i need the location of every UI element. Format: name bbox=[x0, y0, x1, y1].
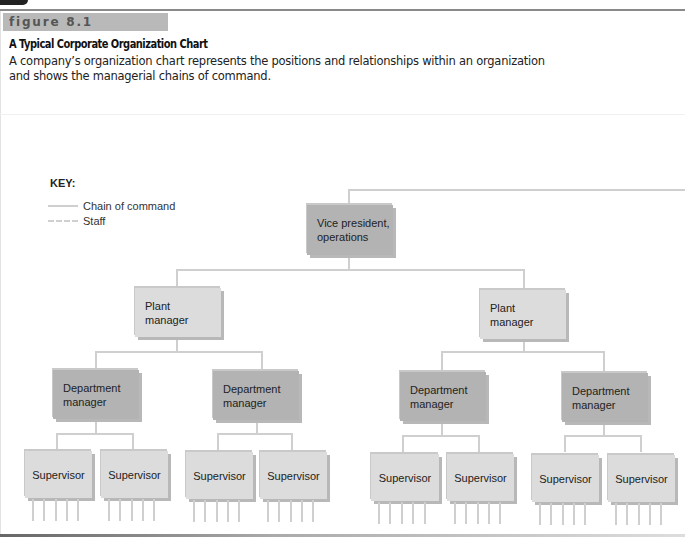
node-supervisor: Supervisor bbox=[371, 454, 439, 501]
connector-line bbox=[56, 433, 134, 435]
subordinate-line bbox=[550, 503, 552, 525]
figure-label: figure 8.1 bbox=[9, 13, 93, 31]
node-vice-president-operations: Vice president, operations bbox=[307, 205, 393, 255]
node-supervisor: Supervisor bbox=[101, 451, 168, 498]
node-supervisor: Supervisor bbox=[25, 451, 92, 498]
connector-line bbox=[441, 422, 443, 436]
node-label: Department manager bbox=[213, 382, 280, 410]
connector-line bbox=[95, 420, 97, 434]
node-label: Supervisor bbox=[267, 469, 320, 483]
solid-line-icon bbox=[48, 205, 78, 207]
key-item-label: Chain of command bbox=[83, 200, 175, 212]
subordinate-line bbox=[454, 502, 456, 524]
subordinate-line bbox=[412, 502, 414, 524]
node-label: Supervisor bbox=[539, 472, 592, 486]
connector-line bbox=[217, 433, 293, 435]
subordinate-line bbox=[193, 500, 195, 522]
figure-description: A company’s organization chart represent… bbox=[9, 54, 569, 83]
node-label: Supervisor bbox=[32, 468, 85, 482]
subordinate-line bbox=[573, 503, 575, 525]
subordinate-line bbox=[238, 500, 240, 522]
subordinate-line bbox=[32, 499, 34, 521]
node-label: Plant manager bbox=[135, 299, 188, 327]
subordinate-line bbox=[216, 500, 218, 522]
subordinate-line bbox=[562, 503, 564, 525]
subordinate-line bbox=[649, 503, 651, 525]
connector-line bbox=[640, 435, 642, 452]
connector-line bbox=[603, 351, 605, 371]
subordinate-line bbox=[477, 502, 479, 524]
subordinate-line bbox=[204, 500, 206, 522]
connector-line bbox=[348, 189, 350, 205]
subordinate-line bbox=[488, 502, 490, 524]
subordinate-line bbox=[55, 499, 57, 521]
connector-line bbox=[603, 422, 605, 436]
node-department-manager: Department manager bbox=[53, 370, 139, 419]
subordinate-line bbox=[465, 502, 467, 524]
subordinate-line bbox=[626, 503, 628, 525]
left-rule bbox=[0, 11, 1, 536]
node-label: Supervisor bbox=[454, 471, 507, 485]
node-label: Department manager bbox=[400, 383, 467, 411]
description-line: and shows the managerial chains of comma… bbox=[9, 69, 569, 84]
connector-line bbox=[564, 435, 642, 437]
subordinate-line bbox=[142, 499, 144, 521]
connector-line bbox=[56, 433, 58, 450]
node-label: Supervisor bbox=[108, 468, 161, 482]
node-supervisor: Supervisor bbox=[447, 454, 514, 501]
subordinate-line bbox=[615, 503, 617, 525]
connector-line bbox=[564, 435, 566, 452]
subordinate-line bbox=[539, 503, 541, 525]
subordinate-line bbox=[424, 502, 426, 524]
connector-line bbox=[95, 351, 97, 369]
subordinate-line bbox=[660, 503, 662, 525]
node-supervisor: Supervisor bbox=[532, 455, 599, 502]
subordinate-line bbox=[267, 500, 269, 522]
connector-line bbox=[478, 435, 480, 452]
node-label: Supervisor bbox=[379, 471, 432, 485]
top-rule bbox=[0, 9, 685, 11]
connector-line bbox=[256, 420, 258, 434]
dashed-line-icon bbox=[48, 220, 78, 222]
connector-line bbox=[523, 269, 525, 289]
subordinate-line bbox=[278, 500, 280, 522]
faint-rule bbox=[0, 114, 685, 115]
node-department-manager: Department manager bbox=[562, 373, 648, 422]
node-supervisor: Supervisor bbox=[260, 452, 327, 499]
subordinate-line bbox=[401, 502, 403, 524]
node-supervisor: Supervisor bbox=[186, 452, 253, 499]
key-item-staff: Staff bbox=[48, 214, 105, 228]
connector-line bbox=[95, 351, 263, 353]
node-label: Plant manager bbox=[480, 301, 533, 329]
key-item-label: Staff bbox=[83, 215, 105, 227]
subordinate-line bbox=[66, 499, 68, 521]
node-label: Department manager bbox=[562, 384, 629, 412]
node-label: Vice president, operations bbox=[307, 216, 390, 244]
node-supervisor: Supervisor bbox=[608, 455, 675, 502]
node-label: Department manager bbox=[53, 381, 120, 409]
node-department-manager: Department manager bbox=[400, 372, 486, 421]
node-plant-manager: Plant manager bbox=[480, 290, 566, 339]
connector-line bbox=[176, 269, 525, 271]
connector-line bbox=[132, 433, 134, 450]
node-label: Supervisor bbox=[615, 472, 668, 486]
subordinate-line bbox=[153, 499, 155, 521]
subordinate-line bbox=[227, 500, 229, 522]
node-plant-manager: Plant manager bbox=[135, 288, 221, 337]
subordinate-line bbox=[43, 499, 45, 521]
corner-tab bbox=[0, 0, 28, 5]
subordinate-line bbox=[290, 500, 292, 522]
connector-line-to-right bbox=[348, 189, 685, 191]
subordinate-line bbox=[108, 499, 110, 521]
connector-line bbox=[402, 435, 404, 452]
key-item-chain-of-command: Chain of command bbox=[48, 199, 175, 213]
subordinate-line bbox=[312, 500, 314, 522]
connector-line bbox=[441, 351, 443, 371]
connector-line bbox=[441, 351, 605, 353]
node-label: Supervisor bbox=[193, 469, 246, 483]
subordinate-line bbox=[301, 500, 303, 522]
description-line: A company’s organization chart represent… bbox=[9, 54, 569, 69]
subordinate-line bbox=[389, 502, 391, 524]
subordinate-line bbox=[77, 499, 79, 521]
bottom-rule bbox=[0, 534, 685, 537]
